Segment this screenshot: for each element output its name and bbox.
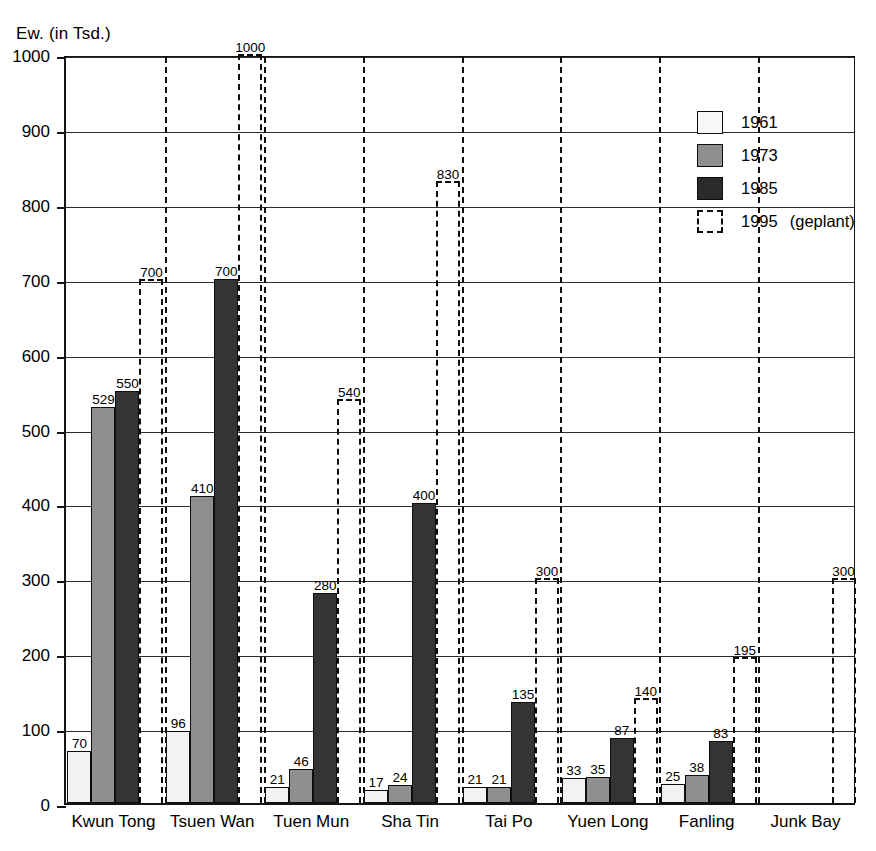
y-axis-title: Ew. (in Tsd.) bbox=[16, 24, 111, 44]
bar-group: 1724400830 bbox=[363, 57, 462, 803]
ytick-mark-900 bbox=[57, 132, 66, 134]
bar-1995-sha-tin: 830 bbox=[436, 181, 460, 803]
x-axis-label-junk-bay: Junk Bay bbox=[756, 812, 855, 832]
bar-value-label: 830 bbox=[437, 168, 460, 182]
bar-1961-tuen-mun: 21 bbox=[265, 787, 289, 803]
legend-note-1995: (geplant) bbox=[790, 212, 855, 231]
bar-value-label: 70 bbox=[72, 736, 87, 750]
bar-value-label: 135 bbox=[512, 687, 535, 701]
group-separator bbox=[363, 57, 365, 803]
bar-value-label: 38 bbox=[689, 760, 704, 774]
bar-value-label: 700 bbox=[140, 265, 163, 279]
bar-1995-tsuen-wan: 1000 bbox=[238, 54, 262, 803]
bar-value-label: 1000 bbox=[235, 41, 265, 55]
bar-value-label: 140 bbox=[635, 685, 658, 699]
bar-value-label: 300 bbox=[536, 565, 559, 579]
bar-1985-fanling: 83 bbox=[709, 741, 733, 803]
bar-1973-kwun-tong: 529 bbox=[91, 407, 115, 803]
group-separator bbox=[659, 57, 661, 803]
bar-1985-tuen-mun: 280 bbox=[313, 593, 337, 803]
ytick-mark-300 bbox=[57, 581, 66, 583]
bar-value-label: 21 bbox=[491, 773, 506, 787]
ytick-label-100: 100 bbox=[0, 722, 50, 739]
legend-swatch-1973 bbox=[697, 144, 723, 167]
bar-value-label: 24 bbox=[393, 771, 408, 785]
group-separator bbox=[462, 57, 464, 803]
legend-label-1961: 1961 bbox=[741, 113, 778, 132]
bar-value-label: 195 bbox=[733, 643, 756, 657]
bar-group: 70529550700 bbox=[66, 57, 165, 803]
x-axis-label-kwun-tong: Kwun Tong bbox=[64, 812, 163, 832]
ytick-label-300: 300 bbox=[0, 572, 50, 589]
bar-value-label: 46 bbox=[294, 754, 309, 768]
x-axis-label-tuen-mun: Tuen Mun bbox=[262, 812, 361, 832]
chart-root: Ew. (in Tsd.) 70529550700964107001000214… bbox=[0, 0, 876, 851]
ytick-mark-1000 bbox=[57, 57, 66, 59]
bar-value-label: 33 bbox=[566, 764, 581, 778]
bar-value-label: 529 bbox=[92, 392, 115, 406]
bar-1973-yuen-long: 35 bbox=[586, 777, 610, 803]
bar-1995-junk-bay: 300 bbox=[832, 578, 856, 803]
ytick-mark-600 bbox=[57, 357, 66, 359]
ytick-mark-100 bbox=[57, 731, 66, 733]
legend-label-1985: 1985 bbox=[741, 179, 778, 198]
bar-value-label: 700 bbox=[215, 264, 238, 278]
bar-1961-tai-po: 21 bbox=[463, 787, 487, 803]
bar-1995-kwun-tong: 700 bbox=[139, 279, 163, 803]
bar-group: 2121135300 bbox=[462, 57, 561, 803]
bar-1973-tuen-mun: 46 bbox=[289, 769, 313, 803]
ytick-label-600: 600 bbox=[0, 348, 50, 365]
ytick-label-900: 900 bbox=[0, 123, 50, 140]
legend-item-1995: 1995 (geplant) bbox=[697, 205, 855, 238]
group-separator bbox=[560, 57, 562, 803]
ytick-mark-500 bbox=[57, 432, 66, 434]
bar-group: 964107001000 bbox=[165, 57, 264, 803]
x-axis-label-sha-tin: Sha Tin bbox=[361, 812, 460, 832]
bar-1995-tai-po: 300 bbox=[535, 578, 559, 803]
bar-1973-fanling: 38 bbox=[685, 775, 709, 803]
legend-item-1961: 1961 bbox=[697, 106, 855, 139]
bar-group: 333587140 bbox=[560, 57, 659, 803]
ytick-mark-800 bbox=[57, 207, 66, 209]
bar-value-label: 550 bbox=[116, 377, 139, 391]
x-axis-label-tai-po: Tai Po bbox=[460, 812, 559, 832]
bar-1985-sha-tin: 400 bbox=[412, 503, 436, 803]
x-axis-label-yuen-long: Yuen Long bbox=[558, 812, 657, 832]
ytick-label-0: 0 bbox=[0, 797, 50, 814]
bar-1961-kwun-tong: 70 bbox=[67, 751, 91, 803]
ytick-mark-200 bbox=[57, 656, 66, 658]
bar-1973-tsuen-wan: 410 bbox=[190, 496, 214, 803]
bar-1985-tai-po: 135 bbox=[511, 702, 535, 803]
bar-value-label: 540 bbox=[338, 385, 361, 399]
bar-1961-yuen-long: 33 bbox=[562, 778, 586, 803]
x-axis-label-fanling: Fanling bbox=[657, 812, 756, 832]
bar-1985-tsuen-wan: 700 bbox=[214, 279, 238, 803]
bar-1985-kwun-tong: 550 bbox=[115, 391, 139, 803]
bar-value-label: 21 bbox=[467, 773, 482, 787]
legend-swatch-1995 bbox=[697, 210, 723, 233]
ytick-mark-0 bbox=[57, 806, 66, 808]
legend-label-1995: 1995 bbox=[741, 212, 778, 231]
legend-label-1973: 1973 bbox=[741, 146, 778, 165]
bar-1995-tuen-mun: 540 bbox=[337, 399, 361, 803]
bar-value-label: 17 bbox=[369, 776, 384, 790]
legend-swatch-1961 bbox=[697, 111, 723, 134]
legend-item-1985: 1985 bbox=[697, 172, 855, 205]
x-axis-label-tsuen-wan: Tsuen Wan bbox=[163, 812, 262, 832]
bar-group: 2146280540 bbox=[264, 57, 363, 803]
bar-1961-sha-tin: 17 bbox=[364, 790, 388, 803]
bar-1985-yuen-long: 87 bbox=[610, 738, 634, 803]
ytick-label-800: 800 bbox=[0, 198, 50, 215]
ytick-mark-700 bbox=[57, 282, 66, 284]
bar-value-label: 25 bbox=[665, 770, 680, 784]
ytick-label-500: 500 bbox=[0, 423, 50, 440]
bar-value-label: 21 bbox=[270, 773, 285, 787]
bar-1995-yuen-long: 140 bbox=[634, 698, 658, 803]
bar-value-label: 83 bbox=[713, 726, 728, 740]
legend-item-1973: 1973 bbox=[697, 139, 855, 172]
bar-1973-sha-tin: 24 bbox=[388, 785, 412, 803]
legend-swatch-1985 bbox=[697, 177, 723, 200]
bar-value-label: 87 bbox=[614, 723, 629, 737]
ytick-label-1000: 1000 bbox=[0, 48, 50, 65]
ytick-label-200: 200 bbox=[0, 647, 50, 664]
